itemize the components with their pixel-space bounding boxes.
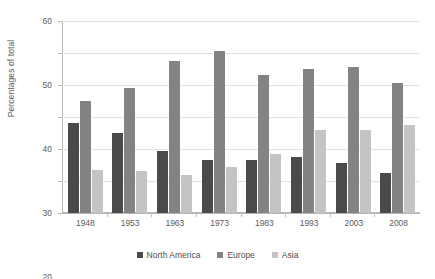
bar-europe-2003 (348, 67, 359, 213)
x-axis-tick-label: 1953 (108, 218, 153, 228)
x-axis-tick (374, 213, 375, 217)
y-axis-tick-label: 50 (43, 81, 52, 90)
x-axis-tick-label: 1963 (153, 218, 198, 228)
bar-group (375, 21, 420, 213)
legend-item-asia[interactable]: Asia (272, 250, 299, 260)
legend-item-north-america[interactable]: North America (137, 250, 201, 260)
bar-north-america-1953 (112, 133, 123, 213)
y-axis-tick-label: 30 (43, 209, 52, 218)
legend-item-europe[interactable]: Europe (217, 250, 254, 260)
x-axis-tick (196, 213, 197, 217)
y-axis-tick: 40 (58, 85, 62, 86)
bar-north-america-2008 (380, 173, 391, 213)
x-axis-tick-label: 2008 (376, 218, 421, 228)
y-axis-tick-label: 20 (43, 273, 52, 279)
x-axis-tick-label: 1948 (63, 218, 108, 228)
bar-north-america-1963 (157, 151, 168, 213)
bar-group (197, 21, 242, 213)
legend-label: Europe (227, 250, 254, 260)
legend-label: North America (147, 250, 201, 260)
y-axis-tick: 50 (58, 53, 62, 54)
bar-europe-1983 (258, 75, 269, 213)
bar-europe-1963 (169, 61, 180, 213)
plot-area: 0102030405060 (62, 21, 420, 213)
bar-asia-2008 (404, 125, 415, 213)
x-axis-tick-label: 2003 (332, 218, 377, 228)
y-axis-tick: 20 (58, 149, 62, 150)
legend-label: Asia (282, 250, 299, 260)
bar-north-america-2003 (336, 163, 347, 213)
x-axis-tick-label: 1993 (287, 218, 332, 228)
x-axis-tick-label: 1973 (197, 218, 242, 228)
bar-groups (63, 21, 420, 213)
bar-europe-1973 (214, 51, 225, 213)
y-axis-tick: 60 (58, 21, 62, 22)
legend-swatch-icon (137, 252, 143, 258)
bar-asia-2003 (360, 130, 371, 213)
x-axis-tick (285, 213, 286, 217)
legend-swatch-icon (217, 252, 223, 258)
bar-group (152, 21, 197, 213)
bar-north-america-1993 (291, 157, 302, 213)
x-axis-tick (241, 213, 242, 217)
y-axis-title: Percentages of total (0, 0, 22, 218)
bar-north-america-1948 (68, 123, 79, 213)
x-axis-tick (330, 213, 331, 217)
bar-europe-1993 (303, 69, 314, 213)
y-axis-tick: 10 (58, 181, 62, 182)
chart-legend: North AmericaEuropeAsia (0, 250, 435, 260)
bar-europe-1948 (80, 101, 91, 213)
bar-asia-1993 (315, 130, 326, 213)
bar-group (242, 21, 287, 213)
legend-swatch-icon (272, 252, 278, 258)
x-axis-tick-labels: 19481953196319731983199320032008 (63, 218, 421, 228)
x-axis-tick (151, 213, 152, 217)
bar-north-america-1973 (202, 160, 213, 213)
bar-chart: Percentages of total 0102030405060 19481… (0, 0, 435, 279)
y-axis-tick: 30 (58, 117, 62, 118)
x-axis-tick (107, 213, 108, 217)
bar-group (108, 21, 153, 213)
y-axis-tick-label: 60 (43, 17, 52, 26)
bar-europe-1953 (124, 88, 135, 213)
x-axis-tick-label: 1983 (242, 218, 287, 228)
y-axis-tick-label: 40 (43, 145, 52, 154)
bar-group (63, 21, 108, 213)
bar-asia-1983 (270, 154, 281, 213)
bar-group (286, 21, 331, 213)
bar-north-america-1983 (246, 160, 257, 213)
bar-group (331, 21, 376, 213)
bar-asia-1973 (226, 167, 237, 213)
y-axis-tick: 0 (58, 213, 62, 214)
bar-europe-2008 (392, 83, 403, 213)
bar-asia-1953 (136, 171, 147, 213)
bar-asia-1963 (181, 175, 192, 213)
bar-asia-1948 (92, 170, 103, 213)
